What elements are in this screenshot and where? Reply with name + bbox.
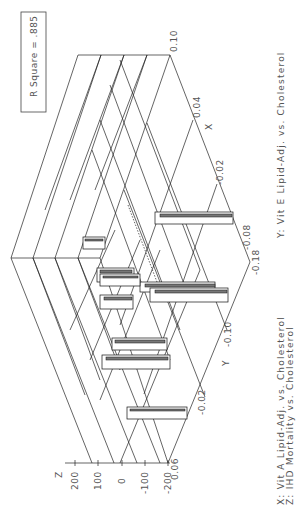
legend-y: Y: Vit E Lipid-Adj. vs. Cholesterol — [276, 51, 286, 239]
y-tick-0.06: 0.06 — [170, 458, 180, 480]
3d-bar-chart: Z 200 100 0 -100 -200 0.10 0.04 X -0.02 … — [0, 0, 297, 508]
y-tick-neg0.02: -0.02 — [197, 389, 207, 415]
y-tick-neg0.10: -0.10 — [223, 321, 233, 347]
y-tick-neg0.18: -0.18 — [251, 249, 261, 275]
floor-grid — [78, 55, 250, 463]
z-tick-200: 200 — [70, 471, 80, 490]
legend-z: Z: IHD Mortality vs. Cholesterol — [285, 326, 295, 505]
r-square-text: R Square = .885 — [29, 15, 39, 97]
z-tick-0: 0 — [117, 478, 127, 484]
z-tick-neg100: -100 — [140, 472, 150, 494]
z-planes — [11, 55, 170, 463]
z-axis: Z 200 100 0 -100 -200 — [54, 460, 173, 494]
z-axis-label: Z — [54, 471, 64, 478]
x-axis-label: X — [204, 123, 214, 130]
x-tick-0.10: 0.10 — [169, 30, 179, 52]
z-tick-100: 100 — [93, 471, 103, 490]
x-tick-0.04: 0.04 — [192, 96, 202, 118]
r-square-box: R Square = .885 — [21, 12, 46, 112]
x-tick-neg0.08: -0.08 — [242, 224, 252, 250]
x-tick-neg0.02: -0.02 — [215, 159, 225, 185]
y-axis-label: Y — [221, 360, 231, 367]
legend: Y: Vit E Lipid-Adj. vs. Cholesterol X: V… — [276, 51, 295, 505]
